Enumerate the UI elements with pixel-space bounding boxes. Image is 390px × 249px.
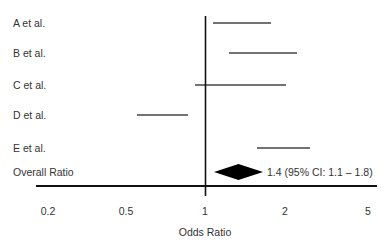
study-labels: A et al.B et al.C et al.D et al.E et al.…: [13, 17, 74, 178]
x-tick-label: 5: [365, 205, 371, 217]
overall-label: Overall Ratio: [13, 166, 74, 178]
x-tick-label: 2: [282, 205, 288, 217]
x-axis-label: Odds Ratio: [179, 226, 232, 238]
study-label: C et al.: [13, 79, 46, 91]
study-label: A et al.: [13, 17, 45, 29]
study-label: B et al.: [13, 47, 46, 59]
study-label: E et al.: [13, 142, 46, 154]
overall-annotation: 1.4 (95% CI: 1.1 – 1.8): [267, 166, 373, 178]
confidence-interval-lines: [137, 23, 310, 148]
overall-diamond: [214, 164, 263, 180]
forest-plot: A et al.B et al.C et al.D et al.E et al.…: [0, 0, 390, 249]
study-label: D et al.: [13, 109, 46, 121]
x-tick-labels: 0.20.5125: [41, 205, 371, 217]
x-tick-label: 0.2: [41, 205, 56, 217]
x-tick-label: 0.5: [119, 205, 134, 217]
x-tick-label: 1: [202, 205, 208, 217]
